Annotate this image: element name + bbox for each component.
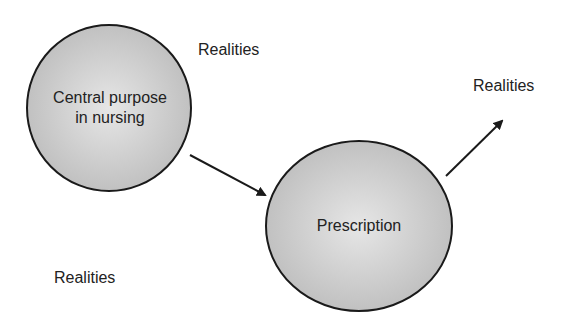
arrow-prescription-to-realities [446, 121, 502, 176]
central-label-line1: Central purpose [27, 88, 193, 108]
label-realities-bottom: Realities [54, 270, 115, 286]
arrow-central-to-prescription [190, 155, 265, 195]
label-realities-top: Realities [198, 42, 259, 58]
label-realities-right: Realities [473, 78, 534, 94]
node-central-purpose-label: Central purpose in nursing [27, 88, 193, 128]
central-label-line2: in nursing [27, 108, 193, 128]
node-prescription-label: Prescription [266, 216, 452, 236]
